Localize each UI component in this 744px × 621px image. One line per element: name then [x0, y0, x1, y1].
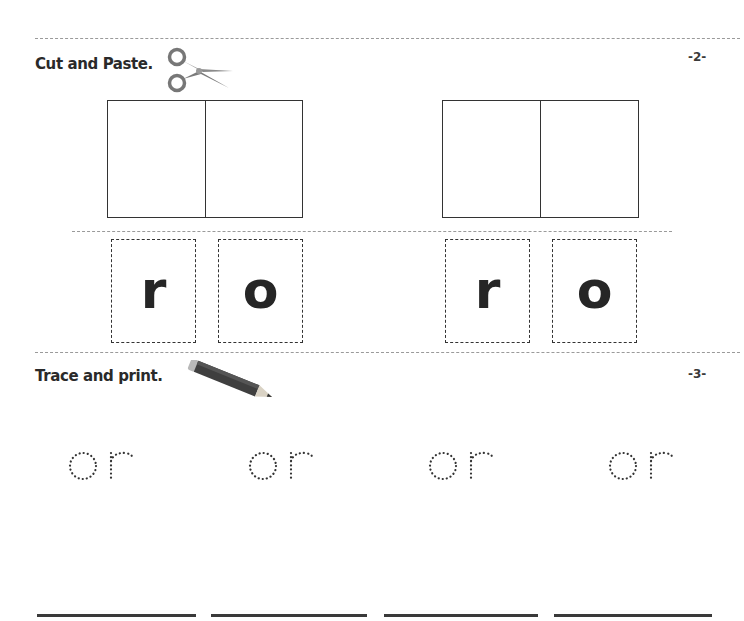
cut-letter: o [243, 264, 279, 316]
trace-and-print-title: Trace and print. [35, 367, 163, 385]
trace-word-or[interactable] [426, 444, 516, 488]
section-divider-top [35, 38, 740, 39]
cut-card-r[interactable]: r [111, 239, 196, 343]
pencil-icon [180, 360, 280, 402]
trace-word-or[interactable] [606, 444, 696, 488]
cut-letter: o [577, 264, 613, 316]
paste-cell[interactable] [205, 101, 303, 217]
cut-card-o[interactable]: o [552, 239, 637, 343]
cut-card-r[interactable]: r [445, 239, 530, 343]
writing-line[interactable] [211, 614, 367, 617]
section-divider-middle [35, 352, 740, 353]
scissors-icon [163, 46, 237, 94]
cut-letter: r [141, 264, 167, 316]
paste-box-2[interactable] [442, 100, 639, 218]
paste-cell[interactable] [108, 101, 205, 217]
trace-word-or[interactable] [246, 444, 336, 488]
cut-line-divider [72, 231, 672, 232]
writing-line[interactable] [554, 614, 712, 617]
cut-letter: r [475, 264, 501, 316]
writing-line[interactable] [37, 614, 196, 617]
cut-card-o[interactable]: o [218, 239, 303, 343]
paste-box-1[interactable] [107, 100, 303, 218]
cut-and-paste-title: Cut and Paste. [35, 55, 153, 73]
trace-word-or[interactable] [66, 444, 156, 488]
paste-cell[interactable] [443, 101, 540, 217]
paste-cell[interactable] [540, 101, 638, 217]
writing-line[interactable] [384, 614, 538, 617]
page-number-3: -3- [688, 367, 706, 381]
page-number-2: -2- [688, 50, 706, 64]
